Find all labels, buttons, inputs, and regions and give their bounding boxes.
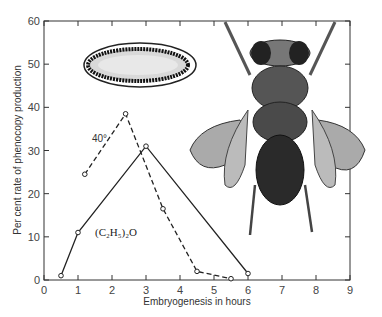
x-tick-label: 0 [41, 284, 47, 296]
x-axis-label: Embryogenesis in hours [143, 296, 250, 307]
data-point [59, 273, 64, 278]
series-label-40deg: 40° [92, 133, 107, 144]
x-tick-label: 3 [143, 284, 149, 296]
x-tick-label: 2 [109, 284, 115, 296]
y-axis-label: Per cent rate of phenocopy production [12, 65, 23, 235]
series-label-ether: (C₂H₅)₂O [95, 226, 137, 239]
x-tick-label: 4 [177, 284, 183, 296]
y-tick-label: 0 [34, 274, 40, 286]
y-tick-label: 20 [28, 188, 40, 200]
fly-illustration [190, 22, 365, 235]
data-point [83, 172, 88, 177]
x-tick-label: 9 [347, 284, 353, 296]
data-point [123, 112, 128, 117]
y-tick-label: 30 [28, 145, 40, 157]
data-point [246, 271, 251, 276]
data-point [144, 144, 149, 149]
data-point [229, 276, 234, 281]
x-tick-label: 6 [245, 284, 251, 296]
y-tick-label: 50 [28, 58, 40, 70]
y-tick-label: 60 [28, 15, 40, 27]
x-tick-label: 1 [75, 284, 81, 296]
y-tick-label: 40 [28, 101, 40, 113]
data-point [76, 230, 81, 235]
data-point [161, 206, 166, 211]
axis-labels: (C₂H₅)₂O40°Embryogenesis in hoursPer cen… [12, 65, 251, 307]
data-point [195, 269, 200, 274]
y-tick-label: 10 [28, 231, 40, 243]
x-tick-label: 7 [279, 284, 285, 296]
chart: 01234567890102030405060 (C₂H₅)₂O40°Embry… [0, 0, 382, 317]
x-tick-label: 5 [211, 284, 217, 296]
x-tick-label: 8 [313, 284, 319, 296]
egg-illustration [84, 43, 196, 87]
